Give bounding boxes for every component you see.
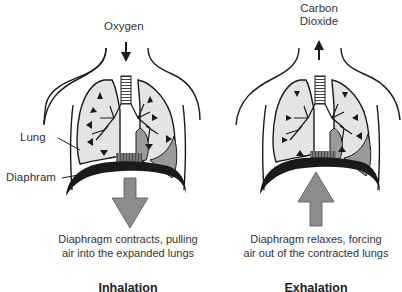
trachea [121, 76, 131, 104]
exhalation-caption: Diaphragm relaxes, forcing air out of th… [226, 232, 402, 260]
exhalation-caption-line2: air out of the contracted lungs [226, 246, 402, 260]
diaphragm-arrow-up [298, 172, 334, 226]
inhalation-caption: Diaphragm contracts, pulling air into th… [38, 232, 218, 260]
inhalation-panel [44, 42, 200, 228]
torso-left-side [71, 105, 73, 190]
carbon-dioxide-out-arrow [314, 40, 324, 60]
oxygen-label: Oxygen [104, 20, 144, 33]
torso-right-side [183, 105, 185, 190]
left-lung [77, 80, 120, 164]
diaphragm-arrow-down [112, 178, 148, 228]
exhalation-caption-line1: Diaphragm relaxes, forcing [226, 232, 402, 246]
respiration-diagram: Oxygen Carbon Dioxide Lung Diaphram Diap… [0, 0, 402, 292]
oxygen-in-arrow [121, 42, 131, 62]
inhalation-caption-line2: air into the expanded lungs [38, 246, 218, 260]
trachea [315, 76, 325, 104]
carbon-dioxide-label-line1: Carbon [296, 2, 342, 15]
carbon-dioxide-label: Carbon Dioxide [296, 2, 342, 28]
exhalation-panel [236, 40, 400, 226]
carbon-dioxide-label-line2: Dioxide [296, 15, 342, 28]
diaphragm-label: Diaphram [6, 171, 56, 184]
left-lung [273, 80, 314, 162]
lung-label: Lung [20, 131, 46, 144]
inhalation-title: Inhalation [78, 281, 178, 292]
exhalation-title: Exhalation [266, 281, 366, 292]
inhalation-caption-line1: Diaphragm contracts, pulling [38, 232, 218, 246]
